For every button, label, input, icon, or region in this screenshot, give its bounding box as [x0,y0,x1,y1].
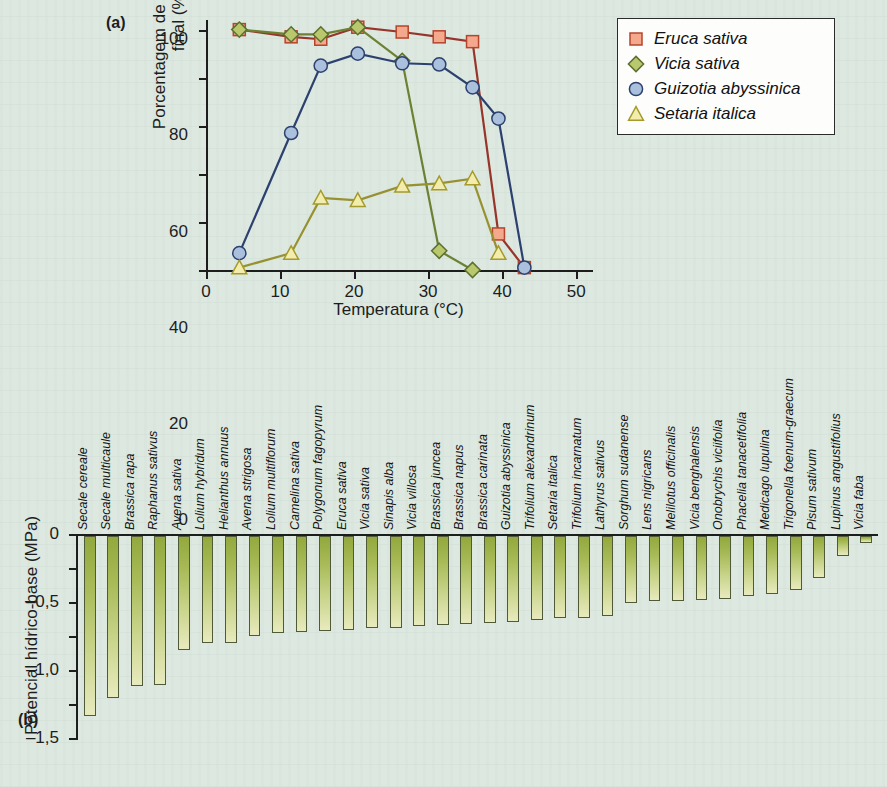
bar-item: Trifolium alexandrinum [531,536,543,740]
panel-a-data-point [491,246,506,260]
bar-item: Vicia benghalensis [696,536,708,740]
bar-category-label: Onobrychis viciifolia [711,420,725,530]
bar [743,536,755,596]
panel-a-data-point [396,26,408,38]
bar-item: Lupinus angustifolius [837,536,849,740]
bar [696,536,708,600]
panel-a-series-guizotia-abyssinica [239,54,524,268]
legend-item-label: Setaria italica [654,104,756,124]
legend-item-vicia-sativa[interactable]: Vicia sativa [627,51,825,76]
bar-item: Lens nigricans [649,536,661,740]
bar [719,536,731,599]
bar-category-label: Vicia benghalensis [688,426,702,530]
panel-a-legend: Eruca sativaVicia sativaGuizotia abyssin… [617,18,835,135]
bar [484,536,496,623]
bar [390,536,402,628]
bar-item: Sorghum sudanense [625,536,637,740]
bar [225,536,237,643]
bar-category-label: Trifolium alexandrinum [523,404,537,530]
bar-item: Brassica juncea [437,536,449,740]
panel-a-germination-chart: (a) Porcentagem de germinação final (%) … [0,0,887,345]
legend-item-guizotia-abyssinica[interactable]: Guizotia abyssinica [627,76,825,101]
panel-a-series-svg [206,20,593,272]
bar-item: Sinapis alba [390,536,402,740]
bar-item: Lathyrus sativus [602,536,614,740]
panel-b-y-tick: –1,0 [69,602,76,604]
panel-b-water-potential-chart: (b) Potencial hídrico-base (MPa) 0–0,5–1… [0,345,887,787]
panel-b-y-tick: –0,5 [69,568,76,570]
bar-item: Secale multicaule [107,536,119,740]
bar-item: Lolium multiflorum [272,536,284,740]
panel-b-y-tick: –2,5 [69,704,76,706]
bar-item: Lolium hybridum [202,536,214,740]
panel-a-x-tick-label: 40 [493,282,512,302]
legend-item-label: Eruca sativa [654,29,748,49]
panel-a-data-point [351,47,364,60]
panel-a-data-point [432,243,447,258]
legend-item-eruca-sativa[interactable]: Eruca sativa [627,26,825,51]
panel-a-data-point [396,57,409,70]
panel-a-data-point [233,247,246,260]
panel-a-x-tick-label: 30 [419,282,438,302]
bar [296,536,308,632]
panel-a-x-tick [502,272,504,279]
panel-a-y-axis-label: Porcentagem de germinação final (%) [150,0,188,145]
bar-category-label: Sorghum sudanense [617,415,631,530]
bar [178,536,190,650]
panel-a-x-tick-label: 50 [567,282,586,302]
panel-a-label: (a) [106,14,126,32]
bar [319,536,331,631]
panel-a-y-tick-label: 100 [148,29,188,49]
triangle-marker-icon [627,105,645,123]
bar-item: Eruca sativa [343,536,355,740]
legend-item-label: Guizotia abyssinica [654,79,800,99]
panel-a-y-tick-label: 40 [148,318,188,338]
bar-category-label: Raphanus sativus [146,431,160,530]
panel-a-x-tick-label: 10 [271,282,290,302]
panel-a-data-point [518,261,531,274]
panel-a-data-point [433,58,446,71]
panel-a-series-line [239,27,524,267]
bar [837,536,849,556]
bar-category-label: Trigonella foenum-graecum [782,378,796,530]
panel-a-y-tick: 100 [199,30,206,32]
bar-item: Brassica rapa [131,536,143,740]
bar-category-label: Polygonum fagopyrum [311,405,325,530]
panel-a-x-axis-label: Temperatura (°C) [206,300,591,320]
panel-b-plot-area: 0–0,5–1,0–1,5–2,0–2,5–3,0 Secale cereale… [76,534,876,740]
bar [154,536,166,685]
panel-a-series-line [239,179,498,268]
bar [437,536,449,625]
square-marker-icon [627,30,645,48]
bar-category-label: Setaria italica [546,455,560,530]
bar-item: Vicia faba [860,536,872,740]
bar-item: Trigonella foenum-graecum [790,536,802,740]
panel-a-y-tick: 80 [199,78,206,80]
bar-item: Helianthus annuus [225,536,237,740]
panel-b-zero-axis-line [76,534,878,536]
panel-a-plot-area: 02040608010001020304050 [206,20,591,270]
bar [84,536,96,716]
bar [413,536,425,626]
bar-category-label: Avena sativa [170,459,184,530]
bar-category-label: Lolium multiflorum [264,429,278,530]
bar [813,536,825,578]
bar [554,536,566,618]
bar [672,536,684,601]
bar-item: Camelina sativa [296,536,308,740]
diamond-marker-icon [627,55,645,73]
legend-item-setaria-italica[interactable]: Setaria italica [627,101,825,126]
bar-category-label: Brassica rapa [123,454,137,530]
bar-category-label: Vicia faba [852,475,866,530]
bar-item: Polygonum fagopyrum [319,536,331,740]
panel-a-series-line [239,54,524,268]
bar-category-label: Melilotus officinalis [664,426,678,530]
bar [649,536,661,601]
bar-category-label: Secale multicaule [99,432,113,530]
bar [343,536,355,630]
bar [366,536,378,628]
panel-a-data-point [465,171,480,185]
bar-item: Vicia villosa [413,536,425,740]
panel-a-x-tick-label: 20 [345,282,364,302]
bar [578,536,590,618]
